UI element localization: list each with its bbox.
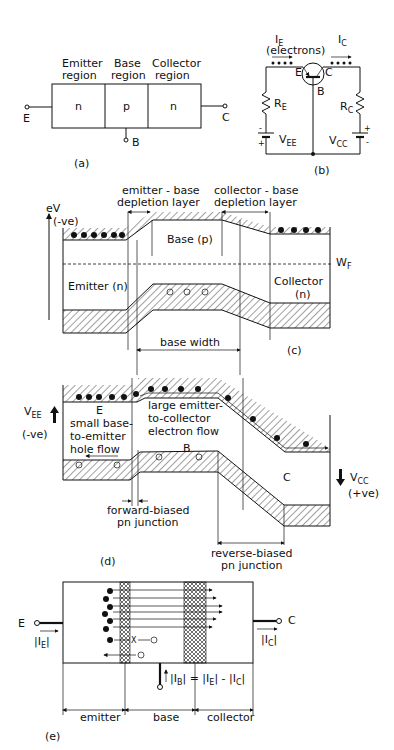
electron-flow-label-3: electron flow [148, 425, 219, 438]
electron-flow-label-1: large emitter- [148, 399, 223, 412]
collector-terminal-label: C [222, 111, 230, 124]
electron-dots-left [272, 62, 293, 65]
vee-label-d: VEE [24, 405, 42, 420]
eb-depletion-region [120, 582, 130, 663]
collector-type: n [170, 100, 177, 113]
ie-magnitude-label: |IE| [34, 635, 50, 650]
vee-plus: + [258, 139, 265, 148]
hole-icon [151, 637, 157, 643]
figure-d-caption: (d) [100, 555, 116, 568]
emitter-region-dim: emitter [80, 711, 121, 724]
figure-a-caption: (a) [74, 157, 89, 170]
vcc-label-d: VCC [350, 471, 369, 486]
cb-depletion-region [184, 582, 206, 663]
collector-region-dim: collector [207, 711, 255, 724]
vee-label: VEE [279, 133, 297, 148]
electron-flow-label-2: to-collector [148, 412, 211, 425]
eb-depletion-label-2: depletion layer [117, 196, 200, 209]
figure-b-caption: (b) [314, 164, 330, 177]
emitter-terminal-e: E [18, 617, 25, 630]
rc-resistor-icon [356, 92, 364, 114]
forward-biased-label-2: pn junction [117, 516, 179, 529]
base-p-label: Base (p) [167, 233, 213, 246]
re-resistor-icon [262, 92, 270, 114]
figure-d-biased-band-diagram: E small base- to-emitter hole flow large… [22, 378, 379, 572]
electrons-e [102, 588, 113, 643]
vee-minus: - [259, 124, 262, 133]
ic-magnitude-label: |IC| [261, 633, 277, 648]
transistor-c-label: C [325, 66, 333, 79]
collector-n-label-2: (n) [295, 288, 311, 301]
base-width-label: base width [160, 336, 220, 349]
figure-e-current-flow: X E |IE| C |IC| |IB| = |IE| - |IC| emitt… [18, 582, 296, 743]
cb-depletion-label-2: depletion layer [214, 196, 297, 209]
energy-axis-label: eV [46, 202, 61, 215]
vcc-label: VCC [329, 134, 348, 149]
electron-dots-right [331, 62, 352, 65]
hole-flow-label-3: hole flow [70, 443, 120, 456]
collector-region-label-2: region [155, 69, 190, 82]
vcc-down-arrow-icon [336, 469, 345, 486]
recombination-x: X [131, 636, 137, 645]
ic-label: IC [338, 33, 347, 48]
hole-icon-2 [138, 652, 144, 658]
transistor-b-label: B [317, 85, 325, 98]
vee-sign-d: (-ve) [22, 428, 48, 441]
figure-c-caption: (c) [287, 344, 302, 357]
figure-b-common-base-circuit: IE (electrons) IC E C B RE RC [258, 33, 371, 177]
base-region-label-2: region [111, 69, 146, 82]
base-type: p [123, 100, 130, 113]
base-current-equation: |IB| = |IE| - |IC| [170, 672, 245, 687]
transistor-e-label: E [295, 66, 302, 79]
vcc-plus: + [364, 124, 371, 133]
device-block [63, 582, 253, 663]
emitter-type: n [75, 100, 82, 113]
energy-axis-sign: (-ve) [53, 215, 79, 228]
vee-up-arrow-icon [50, 406, 59, 423]
re-label: RE [274, 97, 287, 112]
collector-n-label: Collector [274, 275, 323, 288]
region-e-label: E [96, 404, 103, 417]
collector-terminal [223, 104, 227, 108]
emitter-terminal-label: E [23, 112, 30, 125]
base-terminal-label: B [132, 136, 140, 149]
base-terminal [124, 138, 128, 142]
hole-flow-label-1: small base- [70, 417, 133, 430]
reverse-biased-label-2: pn junction [221, 559, 283, 572]
figure-e-caption: (e) [45, 730, 60, 743]
emitter-region-label-2: region [62, 69, 97, 82]
hole-flow-label-2: to-emitter [70, 430, 126, 443]
vcc-minus: - [366, 138, 369, 147]
figure-c-equilibrium-band-diagram: eV (-ve) emitter - base depletion layer … [46, 184, 352, 375]
electrons-label: (electrons) [266, 44, 325, 57]
vcc-sign-d: (+ve) [348, 487, 379, 500]
rc-label: RC [340, 100, 354, 115]
base-region-dim: base [153, 711, 179, 724]
bjt-figure: Emitter region Base region Collector reg… [0, 0, 394, 750]
region-c-label: C [283, 471, 291, 484]
emitter-n-label: Emitter (n) [68, 280, 128, 293]
emitter-terminal [25, 105, 29, 109]
figure-a-npn-structure: Emitter region Base region Collector reg… [23, 57, 230, 170]
collector-terminal-e: C [288, 614, 296, 627]
fermi-level-label: WF [336, 256, 352, 271]
